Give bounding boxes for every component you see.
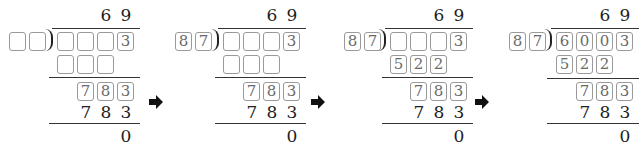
division-bracket xyxy=(378,29,386,51)
divisor-box: 7 xyxy=(195,32,212,51)
final-remainder: 0 xyxy=(117,126,135,146)
dividend-box: 0 xyxy=(596,32,613,51)
divisor-box[interactable] xyxy=(9,32,26,51)
final-remainder: 0 xyxy=(283,126,301,146)
remainder-box: 8 xyxy=(430,82,447,101)
step-panel-1: 6 9 3 7 8 3 7 8 3 0 xyxy=(0,0,150,147)
division-bar xyxy=(385,28,473,29)
step-panel-4: 6 9 8 7 6 0 0 3 5 2 2 7 8 3 7 8 3 0 xyxy=(480,0,630,147)
quotient-digit: 9 xyxy=(117,5,135,25)
dividend-box: 0 xyxy=(576,32,593,51)
dividend-box[interactable] xyxy=(97,32,114,51)
quotient-digit: 9 xyxy=(450,5,468,25)
division-bracket xyxy=(544,29,552,51)
final-remainder: 0 xyxy=(450,126,468,146)
dividend-box[interactable] xyxy=(263,32,280,51)
product-digit: 8 xyxy=(430,102,448,122)
quotient-digit: 9 xyxy=(283,5,301,25)
dividend-box[interactable] xyxy=(410,32,427,51)
dividend-box[interactable] xyxy=(390,32,407,51)
quotient-digit: 6 xyxy=(430,5,448,25)
dividend-box: 3 xyxy=(283,32,300,51)
remainder-box: 8 xyxy=(97,82,114,101)
subtraction-line xyxy=(215,77,306,78)
dividend-box[interactable] xyxy=(77,32,94,51)
step-panel-2: 6 9 8 7 3 7 8 3 7 8 3 0 xyxy=(160,0,310,147)
subtraction-line xyxy=(382,77,473,78)
product-box: 5 xyxy=(390,55,407,74)
final-remainder: 0 xyxy=(616,126,634,146)
product-digit: 7 xyxy=(576,102,594,122)
step-panel-3: 6 9 8 7 3 5 2 2 7 8 3 7 8 3 0 xyxy=(320,0,470,147)
dividend-box: 3 xyxy=(450,32,467,51)
divisor-box: 8 xyxy=(175,32,192,51)
dividend-box: 3 xyxy=(117,32,134,51)
divisor-box: 8 xyxy=(344,32,361,51)
product-box[interactable] xyxy=(263,55,280,74)
product-digit: 3 xyxy=(283,102,301,122)
subtraction-line xyxy=(547,78,639,79)
quotient-digit: 6 xyxy=(263,5,281,25)
remainder-box: 3 xyxy=(450,82,467,101)
quotient-digit: 6 xyxy=(596,5,614,25)
division-bracket xyxy=(45,29,53,51)
subtraction-line xyxy=(49,123,140,124)
remainder-box: 3 xyxy=(616,82,633,101)
subtraction-line xyxy=(49,77,140,78)
remainder-box: 7 xyxy=(410,82,427,101)
subtraction-line xyxy=(215,123,306,124)
product-digit: 8 xyxy=(596,102,614,122)
product-digit: 7 xyxy=(243,102,261,122)
product-digit: 8 xyxy=(263,102,281,122)
product-box: 2 xyxy=(430,55,447,74)
remainder-box: 7 xyxy=(77,82,94,101)
product-box: 2 xyxy=(596,55,613,74)
remainder-box: 8 xyxy=(263,82,280,101)
product-box[interactable] xyxy=(243,55,260,74)
dividend-box[interactable] xyxy=(430,32,447,51)
product-box: 2 xyxy=(576,55,593,74)
product-box[interactable] xyxy=(77,55,94,74)
dividend-box[interactable] xyxy=(223,32,240,51)
divisor-box: 8 xyxy=(509,32,526,51)
quotient-digit: 6 xyxy=(97,5,115,25)
remainder-box: 8 xyxy=(596,82,613,101)
product-digit: 7 xyxy=(410,102,428,122)
product-digit: 7 xyxy=(77,102,95,122)
dividend-box[interactable] xyxy=(57,32,74,51)
division-bar xyxy=(551,28,639,29)
product-box: 2 xyxy=(410,55,427,74)
division-bar xyxy=(218,28,306,29)
product-digit: 3 xyxy=(616,102,634,122)
product-digit: 3 xyxy=(117,102,135,122)
dividend-box[interactable] xyxy=(243,32,260,51)
product-box: 5 xyxy=(556,55,573,74)
product-box[interactable] xyxy=(57,55,74,74)
divisor-box[interactable] xyxy=(29,32,46,51)
product-box[interactable] xyxy=(223,55,240,74)
product-box[interactable] xyxy=(97,55,114,74)
subtraction-line xyxy=(382,123,473,124)
subtraction-line xyxy=(547,123,639,124)
remainder-box: 7 xyxy=(576,82,593,101)
division-bracket xyxy=(211,29,219,51)
division-bar xyxy=(52,28,140,29)
quotient-digit: 9 xyxy=(616,5,634,25)
remainder-box: 3 xyxy=(283,82,300,101)
dividend-box: 3 xyxy=(616,32,633,51)
dividend-box: 6 xyxy=(556,32,573,51)
product-digit: 8 xyxy=(97,102,115,122)
remainder-box: 3 xyxy=(117,82,134,101)
product-digit: 3 xyxy=(450,102,468,122)
remainder-box: 7 xyxy=(243,82,260,101)
